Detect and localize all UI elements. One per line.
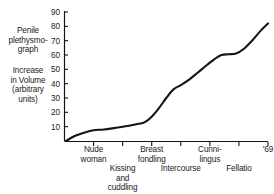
- x-axis-category-label: Intercourse: [153, 164, 209, 174]
- x-axis-category-label: Nude woman: [66, 145, 122, 164]
- data-series-line: [66, 23, 268, 141]
- x-axis-category-label: Cunni- lingus: [182, 145, 238, 164]
- y-axis-tick-label: 50: [51, 65, 61, 74]
- y-axis-tick-label: 60: [51, 51, 61, 60]
- y-axis-tick-label: 80: [51, 22, 61, 31]
- y-axis-tick-labels: 102030405060708090: [51, 8, 61, 132]
- y-axis-tick-label: 20: [51, 108, 61, 117]
- y-axis-tick-label: 70: [51, 37, 61, 46]
- x-axis-category-label: Fellatio: [211, 164, 267, 174]
- x-axis-category-label: Breast fondling: [124, 145, 180, 164]
- y-axis-tick-label: 30: [51, 94, 61, 103]
- plethysmograph-line-chart: Penile plethysmo- graph Increase in Volu…: [0, 0, 274, 194]
- y-axis-tick-label: 10: [51, 123, 61, 132]
- y-axis-tick-label: 90: [51, 8, 61, 17]
- x-axis-category-label: '69: [240, 145, 274, 155]
- x-axis-category-label: Kissing and cuddling: [95, 164, 151, 193]
- y-axis-tick-label: 40: [51, 80, 61, 89]
